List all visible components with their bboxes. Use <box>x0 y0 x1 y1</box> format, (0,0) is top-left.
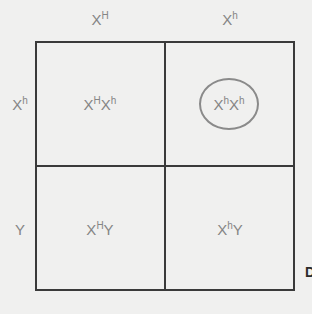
column-header-1-sup: H <box>101 10 108 21</box>
cell-r1-c2: XhXh <box>213 97 244 112</box>
allele-1: X <box>217 221 227 238</box>
column-header-2-base: X <box>222 11 232 28</box>
cell-r2-c2: XhY <box>217 222 243 237</box>
column-header-2-sup: h <box>232 10 238 21</box>
allele-1-sup: H <box>94 95 101 106</box>
allele-2: X <box>101 96 111 113</box>
edge-letter: D <box>305 265 312 279</box>
row-header-1-base: X <box>12 96 22 113</box>
row-header-2: Y <box>15 222 25 237</box>
allele-1-sup: H <box>96 220 103 231</box>
allele-2: X <box>229 96 239 113</box>
column-header-1: XH <box>91 12 108 27</box>
allele-1-sup: h <box>223 95 229 106</box>
allele-2: Y <box>104 221 114 238</box>
allele-2-sup: h <box>111 95 117 106</box>
allele-2-sup: h <box>239 95 245 106</box>
cell-r2-c1: XHY <box>86 222 113 237</box>
allele-1: X <box>84 96 94 113</box>
allele-1-sup: h <box>227 220 233 231</box>
allele-2: Y <box>233 221 243 238</box>
allele-1: X <box>86 221 96 238</box>
punnett-square-diagram: XH Xh Xh Y XHXh XhXh XHY XhY D <box>0 0 312 314</box>
cell-r1-c1: XHXh <box>84 97 117 112</box>
row-header-1-sup: h <box>22 95 28 106</box>
row-header-1: Xh <box>12 97 28 112</box>
allele-1: X <box>213 96 223 113</box>
row-header-2-base: Y <box>15 221 25 238</box>
column-header-1-base: X <box>91 11 101 28</box>
grid-horizontal-divider <box>35 165 295 167</box>
column-header-2: Xh <box>222 12 238 27</box>
